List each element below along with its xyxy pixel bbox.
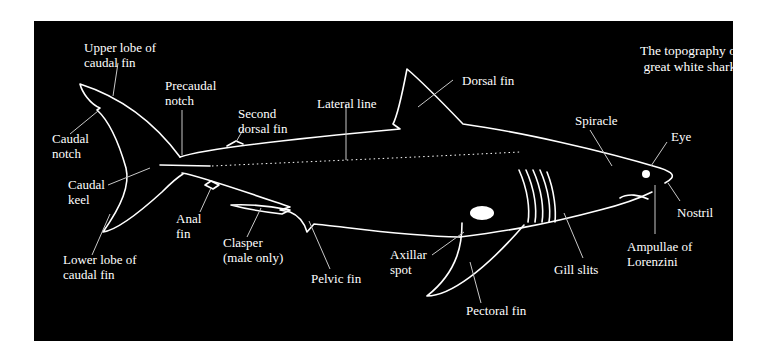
- caudal-keel-outline: [160, 165, 210, 166]
- label-lower-lobe: Lower lobe of caudal fin: [63, 252, 137, 282]
- leader-clasper: [247, 208, 261, 237]
- diagram-title: The topography of the great white shark.: [640, 43, 760, 75]
- eye-dot: [642, 170, 650, 178]
- label-pelvic-fin: Pelvic fin: [311, 271, 361, 286]
- label-dorsal-fin: Dorsal fin: [462, 73, 514, 88]
- label-upper-lobe: Upper lobe of caudal fin: [84, 40, 156, 70]
- label-ampullae: Ampullae of Lorenzini: [627, 239, 692, 269]
- pectoral-fin-outline: [427, 223, 524, 296]
- leader-nostril: [668, 183, 680, 201]
- label-nostril: Nostril: [677, 205, 713, 220]
- leader-gill-slits: [564, 213, 583, 258]
- label-axillar-spot: Axillar spot: [390, 247, 427, 277]
- axillar-spot: [470, 206, 494, 220]
- ventral-tail-outline: [182, 173, 460, 237]
- label-gill-slits: Gill slits: [554, 262, 598, 277]
- leader-caudal-keel: [108, 168, 150, 185]
- label-clasper: Clasper (male only): [223, 235, 283, 265]
- label-caudal-keel: Caudal keel: [68, 177, 105, 207]
- label-second-dorsal-fin: Second dorsal fin: [238, 106, 287, 136]
- diagram-panel: The topography of the great white shark.…: [34, 21, 733, 341]
- label-spiracle: Spiracle: [575, 113, 618, 128]
- label-anal-fin: Anal fin: [176, 211, 201, 241]
- leader-pectoral: [470, 262, 481, 303]
- leader-eye: [651, 142, 667, 166]
- gill-slits-outline: [519, 170, 555, 222]
- label-eye: Eye: [671, 129, 691, 144]
- label-precaudal-notch: Precaudal notch: [165, 78, 216, 108]
- leader-pelvic-fin: [309, 221, 330, 269]
- leader-anal-fin: [200, 188, 211, 212]
- label-lateral-line: Lateral line: [317, 96, 377, 111]
- lateral-line-dots: [212, 152, 520, 166]
- leader-lower-lobe: [92, 214, 110, 255]
- label-pectoral-fin: Pectoral fin: [466, 303, 526, 318]
- leader-spiracle: [590, 130, 612, 166]
- label-caudal-notch: Caudal notch: [52, 131, 89, 161]
